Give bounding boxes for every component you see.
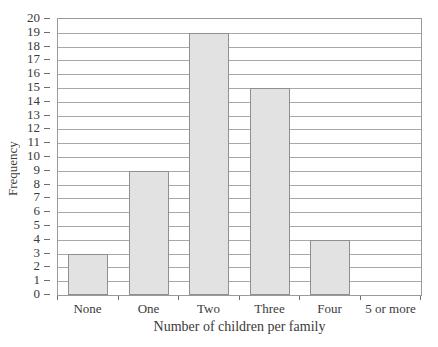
gridline [58, 60, 421, 61]
y-tick-label: 0 [34, 287, 41, 301]
gridline [58, 129, 421, 130]
y-tick-label: 20 [27, 11, 40, 25]
y-tick-mark [44, 115, 50, 116]
x-tick-label: Three [239, 300, 300, 318]
gridline [58, 33, 421, 34]
y-tick-label: 14 [27, 94, 40, 108]
bar-one [129, 171, 169, 295]
gridline [58, 116, 421, 117]
y-tick-mark [44, 266, 50, 267]
y-tick-mark [44, 280, 50, 281]
y-tick-mark [44, 18, 50, 19]
gridline [58, 74, 421, 75]
y-tick-label: 2 [34, 259, 41, 273]
y-tick-label: 4 [34, 232, 41, 246]
y-tick-label: 12 [27, 121, 40, 135]
y-tick-mark [44, 197, 50, 198]
plot-area [57, 18, 422, 296]
y-tick-mark [44, 211, 50, 212]
y-tick-label: 16 [27, 66, 40, 80]
gridline [58, 171, 421, 172]
x-axis-tick-labels: NoneOneTwoThreeFour5 or more [57, 300, 422, 318]
gridline [58, 47, 421, 48]
gridline [58, 281, 421, 282]
gridline [58, 267, 421, 268]
y-tick-label: 11 [27, 135, 40, 149]
y-tick-mark [44, 184, 50, 185]
x-tick-label: 5 or more [360, 300, 421, 318]
y-tick-mark [44, 239, 50, 240]
y-tick-mark [44, 225, 50, 226]
bar-none [68, 254, 108, 295]
gridline [58, 226, 421, 227]
y-tick-label: 17 [27, 52, 40, 66]
gridline [58, 157, 421, 158]
bar-three [250, 88, 290, 295]
x-tick-label: None [57, 300, 118, 318]
gridline [58, 102, 421, 103]
y-tick-mark [44, 87, 50, 88]
y-tick-mark [44, 46, 50, 47]
y-tick-label: 8 [34, 177, 41, 191]
gridline [58, 254, 421, 255]
gridline [58, 240, 421, 241]
y-tick-mark [44, 253, 50, 254]
y-tick-mark [44, 142, 50, 143]
y-tick-label: 7 [34, 190, 41, 204]
y-tick-label: 1 [34, 273, 41, 287]
y-tick-label: 6 [34, 204, 41, 218]
chart-title [0, 0, 438, 5]
gridline [58, 198, 421, 199]
y-tick-mark [44, 73, 50, 74]
y-tick-label: 19 [27, 25, 40, 39]
bar-two [189, 33, 229, 295]
gridline [58, 185, 421, 186]
x-tick-label: Two [178, 300, 239, 318]
y-tick-label: 5 [34, 218, 41, 232]
y-tick-mark [44, 294, 50, 295]
x-tick-label: One [118, 300, 179, 318]
y-tick-label: 15 [27, 80, 40, 94]
gridline [58, 212, 421, 213]
y-tick-label: 18 [27, 39, 40, 53]
y-tick-mark [44, 128, 50, 129]
y-tick-mark [44, 156, 50, 157]
gridline [58, 143, 421, 144]
y-tick-mark [44, 59, 50, 60]
x-axis-title: Number of children per family [57, 318, 422, 336]
y-axis-tick-labels: 01234567891011121314151617181920 [0, 18, 50, 296]
y-tick-mark [44, 170, 50, 171]
y-tick-mark [44, 101, 50, 102]
bar-four [310, 240, 350, 295]
y-tick-label: 13 [27, 108, 40, 122]
x-tick-label: Four [299, 300, 360, 318]
y-tick-label: 9 [34, 163, 41, 177]
y-tick-mark [44, 32, 50, 33]
gridline [58, 88, 421, 89]
y-tick-label: 10 [27, 149, 40, 163]
y-tick-label: 3 [34, 246, 41, 260]
